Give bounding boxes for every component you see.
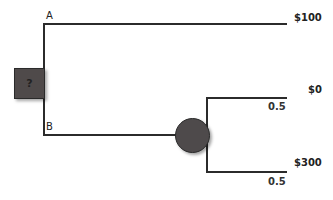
probability-b-2: 0.5 — [268, 176, 286, 188]
payoff-a: $100 — [294, 12, 322, 24]
chance-node — [175, 118, 210, 153]
branch-b-label: B — [46, 121, 53, 133]
payoff-b-2: $300 — [294, 157, 322, 169]
decision-node: ? — [14, 68, 45, 99]
branch-a-label: A — [46, 10, 53, 22]
outcome-1-line — [206, 97, 287, 99]
outcome-2-line — [206, 171, 287, 173]
decision-node-symbol: ? — [26, 77, 32, 90]
probability-b-1: 0.5 — [268, 101, 286, 113]
branch-b-line — [43, 134, 177, 136]
branch-a-line — [43, 23, 287, 25]
payoff-b-1: $0 — [308, 84, 322, 96]
